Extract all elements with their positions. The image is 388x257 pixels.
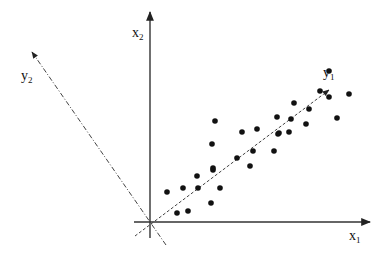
data-point bbox=[271, 148, 277, 154]
y2-axis-label: y2 bbox=[21, 69, 33, 85]
data-point bbox=[185, 208, 191, 214]
data-point bbox=[247, 163, 253, 169]
data-point bbox=[234, 155, 240, 161]
data-point bbox=[288, 116, 294, 122]
data-point bbox=[164, 189, 170, 195]
y1-principal-axis bbox=[135, 90, 329, 236]
y2-principal-axis bbox=[32, 52, 166, 245]
data-point bbox=[274, 114, 280, 120]
data-point bbox=[286, 129, 292, 135]
data-point bbox=[250, 148, 256, 154]
x2-axis-label: x2 bbox=[132, 26, 144, 42]
data-point bbox=[194, 173, 200, 179]
data-point bbox=[217, 185, 223, 191]
data-point bbox=[210, 165, 216, 171]
data-point bbox=[317, 88, 323, 94]
data-point bbox=[346, 91, 352, 97]
data-point bbox=[254, 126, 260, 132]
data-point bbox=[208, 200, 214, 206]
data-point bbox=[276, 130, 282, 136]
pca-diagram bbox=[0, 0, 388, 257]
data-point bbox=[334, 115, 340, 121]
y1-axis-label: y1 bbox=[323, 66, 335, 82]
x1-axis-label: x1 bbox=[349, 229, 361, 245]
data-point bbox=[180, 185, 186, 191]
data-point bbox=[239, 129, 245, 135]
data-point bbox=[209, 141, 215, 147]
data-point bbox=[306, 106, 312, 112]
data-point bbox=[195, 185, 201, 191]
data-point bbox=[212, 118, 218, 124]
data-point bbox=[174, 210, 180, 216]
data-point bbox=[291, 100, 297, 106]
data-point bbox=[326, 94, 332, 100]
data-points bbox=[164, 68, 352, 216]
data-point bbox=[303, 121, 309, 127]
